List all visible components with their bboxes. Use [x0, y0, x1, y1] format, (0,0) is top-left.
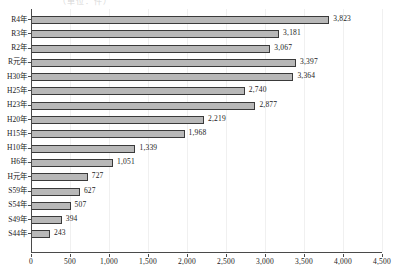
category-label-S54年: S54年: [0, 200, 27, 210]
bar-row: 243: [31, 228, 382, 242]
bar-value-label: 1,968: [189, 127, 207, 139]
gridline-4500: [382, 9, 383, 252]
x-axis-line: [31, 252, 382, 253]
x-tick-label-3500: 3,500: [295, 257, 313, 267]
category-label-H30年: H30年: [0, 72, 27, 82]
bar-row: 2,219: [31, 114, 382, 128]
cropped-header-text: （単位：件）: [0, 0, 394, 9]
bar-row: 3,067: [31, 43, 382, 57]
bar-value-label: 627: [84, 185, 96, 197]
y-tick-R2年: [28, 48, 31, 49]
bar-value-label: 1,339: [139, 142, 157, 154]
x-tick-label-1500: 1,500: [139, 257, 157, 267]
bar-value-label: 2,877: [259, 99, 277, 111]
category-label-R元年: R元年: [0, 57, 27, 67]
bar-value-label: 507: [75, 199, 87, 211]
bar-H20年: [31, 116, 204, 124]
y-tick-H15年: [28, 133, 31, 134]
bar-value-label: 1,051: [117, 156, 135, 168]
x-tick-label-2000: 2,000: [178, 257, 196, 267]
y-tick-R3年: [28, 33, 31, 34]
category-label-H元年: H元年: [0, 172, 27, 182]
y-tick-H元年: [28, 176, 31, 177]
y-tick-S44年: [28, 233, 31, 234]
bar-chart: （単位：件） 3,8233,1813,0673,3973,3642,7402,8…: [0, 0, 394, 278]
bar-row: 3,364: [31, 71, 382, 85]
bar-value-label: 3,397: [300, 56, 318, 68]
bar-value-label: 3,364: [297, 70, 315, 82]
category-label-H10年: H10年: [0, 143, 27, 153]
x-tick-label-0: 0: [29, 257, 33, 267]
bar-row: 2,740: [31, 85, 382, 99]
y-tick-S49年: [28, 219, 31, 220]
y-tick-S59年: [28, 191, 31, 192]
x-tick-label-500: 500: [64, 257, 76, 267]
bar-row: 507: [31, 200, 382, 214]
bar-value-label: 727: [92, 170, 104, 182]
bar-value-label: 394: [66, 213, 78, 225]
y-tick-H23年: [28, 105, 31, 106]
bar-row: 2,877: [31, 100, 382, 114]
bar-row: 394: [31, 214, 382, 228]
y-tick-H20年: [28, 119, 31, 120]
bar-row: 3,397: [31, 57, 382, 71]
category-label-H23年: H23年: [0, 100, 27, 110]
bar-value-label: 3,067: [274, 42, 292, 54]
x-tick-label-2500: 2,500: [217, 257, 235, 267]
bar-S59年: [31, 188, 80, 196]
bar-R3年: [31, 30, 279, 38]
y-tick-H10年: [28, 148, 31, 149]
bar-row: 727: [31, 171, 382, 185]
bar-H23年: [31, 102, 255, 110]
category-label-H25年: H25年: [0, 86, 27, 96]
bar-R4年: [31, 16, 329, 24]
category-label-H20年: H20年: [0, 115, 27, 125]
x-tick-label-3000: 3,000: [256, 257, 274, 267]
bar-H15年: [31, 130, 185, 138]
bar-H30年: [31, 73, 293, 81]
bar-H25年: [31, 87, 245, 95]
bar-row: 1,051: [31, 157, 382, 171]
x-tick-label-1000: 1,000: [100, 257, 118, 267]
bar-rows: 3,8233,1813,0673,3973,3642,7402,8772,219…: [31, 9, 382, 252]
bar-R2年: [31, 45, 270, 53]
category-label-R3年: R3年: [0, 29, 27, 39]
bar-value-label: 3,823: [333, 13, 351, 25]
x-tick-label-4000: 4,000: [334, 257, 352, 267]
bar-S54年: [31, 202, 71, 210]
category-label-R4年: R4年: [0, 15, 27, 25]
y-tick-R元年: [28, 62, 31, 63]
y-tick-H25年: [28, 90, 31, 91]
y-tick-S54年: [28, 205, 31, 206]
category-label-H6年: H6年: [0, 157, 27, 167]
y-tick-R4年: [28, 19, 31, 20]
category-label-H15年: H15年: [0, 129, 27, 139]
bar-S44年: [31, 230, 50, 238]
bar-S49年: [31, 216, 62, 224]
bar-H6年: [31, 159, 113, 167]
category-axis-labels: R4年R3年R2年R元年H30年H25年H23年H20年H15年H10年H6年H…: [0, 9, 29, 252]
x-axis-tick-labels: 05001,0001,5002,0002,5003,0003,5004,0004…: [0, 254, 394, 270]
bar-row: 627: [31, 186, 382, 200]
bar-R元年: [31, 59, 296, 67]
x-tick-label-4500: 4,500: [373, 257, 391, 267]
bar-H元年: [31, 173, 88, 181]
bar-row: 1,339: [31, 143, 382, 157]
y-tick-H6年: [28, 162, 31, 163]
category-label-S44年: S44年: [0, 229, 27, 239]
y-axis-line: [31, 9, 32, 252]
plot-area: 3,8233,1813,0673,3973,3642,7402,8772,219…: [31, 9, 382, 252]
bar-row: 3,823: [31, 14, 382, 28]
category-label-S49年: S49年: [0, 215, 27, 225]
bar-value-label: 243: [54, 227, 66, 239]
bar-value-label: 2,740: [249, 84, 267, 96]
category-label-S59年: S59年: [0, 186, 27, 196]
bar-row: 3,181: [31, 28, 382, 42]
bar-value-label: 3,181: [283, 27, 301, 39]
y-tick-H30年: [28, 76, 31, 77]
category-label-R2年: R2年: [0, 43, 27, 53]
cropped-header-label: （単位：件）: [58, 0, 112, 6]
bar-value-label: 2,219: [208, 113, 226, 125]
bar-row: 1,968: [31, 128, 382, 142]
bar-H10年: [31, 145, 135, 153]
